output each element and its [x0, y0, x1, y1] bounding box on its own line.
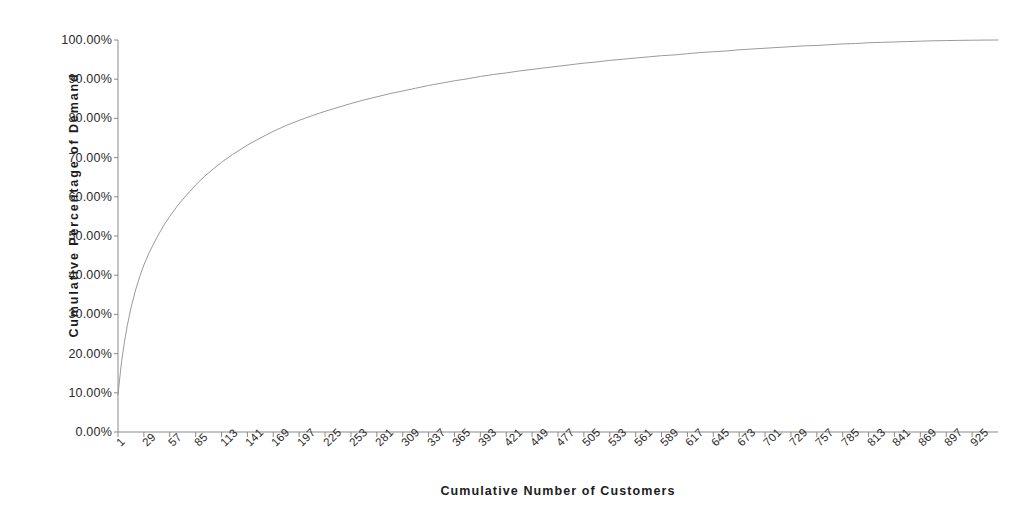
y-tick-label: 30.00% — [40, 307, 112, 321]
y-tick-label: 20.00% — [40, 347, 112, 361]
y-tick-label: 100.00% — [40, 33, 112, 47]
y-tick-label: 0.00% — [40, 425, 112, 439]
y-tick-label: 10.00% — [40, 386, 112, 400]
x-tick-label: 57 — [166, 431, 184, 449]
y-tick-label: 60.00% — [40, 190, 112, 204]
plot-area — [118, 40, 998, 432]
cumulative-demand-curve — [118, 40, 998, 395]
pareto-chart: Cumulative Percentage of Demand 100.00%9… — [0, 0, 1032, 520]
y-tick-label: 70.00% — [40, 151, 112, 165]
y-tick-label: 80.00% — [40, 111, 112, 125]
y-tick-label: 50.00% — [40, 229, 112, 243]
x-axis-tick-labels: 1295785113141169197225253281309337365393… — [118, 436, 998, 486]
x-axis-title: Cumulative Number of Customers — [118, 484, 998, 498]
y-axis-tick-labels: 100.00%90.00%80.00%70.00%60.00%50.00%40.… — [40, 32, 112, 432]
y-tick-label: 40.00% — [40, 268, 112, 282]
x-tick-label: 29 — [140, 431, 158, 449]
chart-svg — [118, 40, 998, 432]
y-tick-label: 90.00% — [40, 72, 112, 86]
axis-lines — [118, 40, 998, 432]
y-axis-tick-marks — [114, 40, 118, 432]
x-tick-label: 1 — [114, 435, 127, 448]
x-tick-label: 85 — [192, 431, 210, 449]
